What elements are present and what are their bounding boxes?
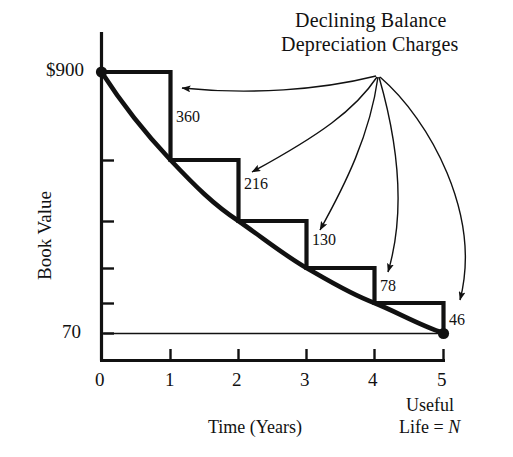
x-tick-label-5: 5 <box>437 370 447 391</box>
y-axis-salvage-value-label: 70 <box>62 322 81 343</box>
x-tick-label-2: 2 <box>232 370 242 391</box>
leader-arrow-130 <box>320 77 378 230</box>
y-axis-top-value-label: $900 <box>46 60 84 81</box>
annotation-title-line-1: Declining Balance <box>295 10 447 32</box>
x-tick-label-0: 0 <box>95 370 105 391</box>
charge-label-year-5: 46 <box>449 311 465 328</box>
leader-arrow-360 <box>182 76 376 91</box>
charge-label-year-1: 360 <box>176 108 200 125</box>
x-tick-label-4: 4 <box>368 370 378 391</box>
annotation-title-line-2: Depreciation Charges <box>281 34 458 56</box>
useful-life-label-text: Life = <box>399 417 448 437</box>
declining-balance-depreciation-figure: Declining Balance Depreciation Charges B… <box>0 0 513 457</box>
charge-label-year-4: 78 <box>380 277 396 294</box>
charge-label-year-2: 216 <box>244 175 268 192</box>
useful-life-label-line-2: Life = N <box>399 418 460 437</box>
x-tick-label-3: 3 <box>300 370 310 391</box>
y-axis-ticks <box>102 161 115 334</box>
useful-life-label-line-1: Useful <box>406 396 454 415</box>
x-axis-label: Time (Years) <box>208 418 302 437</box>
useful-life-symbol: N <box>448 417 460 437</box>
charge-label-year-3: 130 <box>312 231 336 248</box>
leader-arrow-46 <box>380 77 465 300</box>
start-point-marker <box>96 66 107 77</box>
end-point-marker <box>438 328 449 339</box>
leader-arrow-78 <box>379 77 398 272</box>
x-axis-ticks <box>171 349 444 361</box>
x-tick-label-1: 1 <box>165 370 175 391</box>
y-axis-label: Book Value <box>34 191 56 280</box>
